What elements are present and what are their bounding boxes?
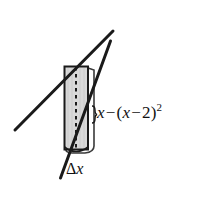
thickness-label: Δx bbox=[66, 161, 83, 177]
figure-container: x−(x−2)2 Δx bbox=[0, 0, 208, 206]
expr-inner-operator: − bbox=[130, 103, 142, 122]
delta-variable: x bbox=[76, 160, 83, 177]
expr-exponent: 2 bbox=[157, 101, 163, 113]
expr-constant: 2 bbox=[142, 103, 151, 122]
function-expression-label: x−(x−2)2 bbox=[97, 104, 162, 121]
delta-symbol: Δ bbox=[66, 160, 76, 177]
expr-var2: x bbox=[122, 103, 130, 122]
expr-operator: − bbox=[105, 103, 117, 122]
expr-var1: x bbox=[97, 103, 105, 122]
